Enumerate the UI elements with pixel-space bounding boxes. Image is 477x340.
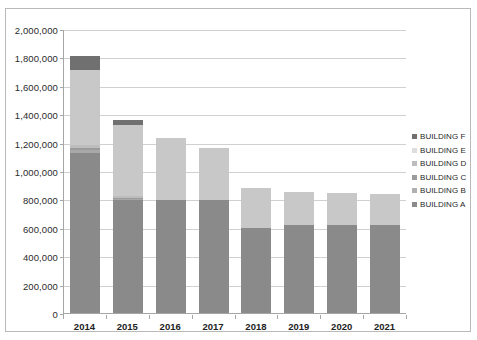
bar-column[interactable] <box>199 148 229 313</box>
legend-item[interactable]: BUILDING C <box>412 171 477 185</box>
y-axis-tick-label: 1,600,000 <box>15 81 58 92</box>
legend-swatch-icon <box>412 134 417 139</box>
chart-page: 0200,000400,000600,000800,0001,000,0001,… <box>0 0 477 340</box>
bar-column[interactable] <box>327 193 357 313</box>
plot-area <box>63 30 406 314</box>
chart-frame: 0200,000400,000600,000800,0001,000,0001,… <box>5 8 471 332</box>
bar-segment[interactable] <box>370 225 400 313</box>
x-axis-tick-mark <box>406 315 407 319</box>
bar-column[interactable] <box>156 138 186 313</box>
y-axis-labels: 0200,000400,000600,000800,0001,000,0001,… <box>6 30 58 314</box>
bar-segment[interactable] <box>156 138 186 200</box>
x-axis-tick-mark <box>106 315 107 319</box>
legend-swatch-icon <box>412 148 417 153</box>
y-axis-tick-label: 600,000 <box>23 223 58 234</box>
legend-item-label: BUILDING E <box>420 146 466 155</box>
bar-segment[interactable] <box>327 193 357 225</box>
legend-swatch-icon <box>412 175 417 180</box>
bar-column[interactable] <box>241 188 271 313</box>
x-axis-labels: 20142015201620172018201920202021 <box>63 315 406 337</box>
x-axis-tick-mark <box>149 315 150 319</box>
y-axis-tick-label: 200,000 <box>23 280 58 291</box>
y-axis-tick-label: 1,800,000 <box>15 53 58 64</box>
x-axis-tick-label: 2018 <box>241 321 271 332</box>
x-axis-tick-mark <box>63 315 64 319</box>
legend: BUILDING FBUILDING EBUILDING DBUILDING C… <box>412 130 477 211</box>
legend-item-label: BUILDING F <box>420 132 465 141</box>
legend-item[interactable]: BUILDING B <box>412 184 477 198</box>
legend-item-label: BUILDING D <box>420 159 466 168</box>
bar-segment[interactable] <box>156 200 186 313</box>
x-axis-tick-mark <box>277 315 278 319</box>
x-axis-tick-label: 2015 <box>112 321 142 332</box>
y-axis-tick-label: 1,200,000 <box>15 138 58 149</box>
bar-segment[interactable] <box>113 125 143 196</box>
bar-segment[interactable] <box>327 225 357 313</box>
legend-swatch-icon <box>412 202 417 207</box>
legend-swatch-icon <box>412 161 417 166</box>
bar-segment[interactable] <box>70 70 100 145</box>
x-axis-tick-label: 2020 <box>327 321 357 332</box>
x-axis-tick-label: 2016 <box>155 321 185 332</box>
y-axis-tick-label: 800,000 <box>23 195 58 206</box>
bar-segment[interactable] <box>199 200 229 313</box>
y-axis-tick-label: 2,000,000 <box>15 25 58 36</box>
x-axis-tick-mark <box>320 315 321 319</box>
y-axis-tick-label: 400,000 <box>23 252 58 263</box>
y-axis-tick-label: 0 <box>53 309 58 320</box>
bar-column[interactable] <box>370 194 400 313</box>
x-axis-tick-mark <box>363 315 364 319</box>
bar-segment[interactable] <box>284 225 314 313</box>
x-axis-tick-label: 2021 <box>370 321 400 332</box>
legend-item[interactable]: BUILDING F <box>412 130 477 144</box>
bar-segment[interactable] <box>70 153 100 313</box>
x-axis-tick-label: 2017 <box>198 321 228 332</box>
x-axis-tick-mark <box>192 315 193 319</box>
bar-segment[interactable] <box>70 56 100 70</box>
legend-item[interactable]: BUILDING E <box>412 144 477 158</box>
legend-item-label: BUILDING B <box>420 186 466 195</box>
bar-column[interactable] <box>113 120 143 313</box>
bar-series-group <box>64 30 406 313</box>
legend-item[interactable]: BUILDING D <box>412 157 477 171</box>
bar-segment[interactable] <box>284 192 314 225</box>
y-axis-tick-label: 1,400,000 <box>15 110 58 121</box>
bar-segment[interactable] <box>370 194 400 225</box>
x-axis-tick-label: 2019 <box>284 321 314 332</box>
x-axis-tick-mark <box>235 315 236 319</box>
legend-item-label: BUILDING A <box>420 200 465 209</box>
bar-column[interactable] <box>70 56 100 313</box>
x-axis-tick-label: 2014 <box>69 321 99 332</box>
bar-segment[interactable] <box>113 200 143 313</box>
y-axis-tick-label: 1,000,000 <box>15 167 58 178</box>
legend-item-label: BUILDING C <box>420 173 466 182</box>
bar-segment[interactable] <box>241 188 271 228</box>
legend-swatch-icon <box>412 188 417 193</box>
bar-column[interactable] <box>284 192 314 313</box>
legend-item[interactable]: BUILDING A <box>412 198 477 212</box>
bar-segment[interactable] <box>241 228 271 313</box>
bar-segment[interactable] <box>199 148 229 201</box>
